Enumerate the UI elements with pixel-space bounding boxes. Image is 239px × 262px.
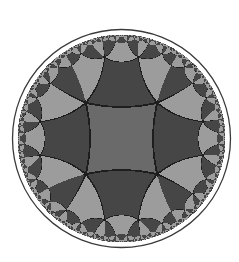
hyperbolic-disk-figure: Hyperbolic tiling of the Poincaré disk — [0, 0, 239, 262]
tiling-canvas — [0, 0, 239, 262]
